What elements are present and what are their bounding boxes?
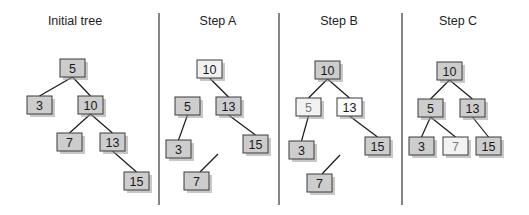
panel-title: Step A [200,14,237,28]
tree-node: 5 [60,59,88,80]
tree-node: 10 [437,62,465,83]
panels: Initial tree531071315Step A105133157Step… [27,14,504,195]
tree-node: 3 [289,141,317,162]
panel-title: Step C [439,14,477,28]
tree-node: 3 [166,140,194,161]
tree-node: 7 [57,133,85,154]
tree-node: 7 [307,174,335,195]
tree-node: 5 [418,99,446,120]
tree-node: 10 [315,61,343,82]
tree-node: 10 [197,60,225,81]
node-label: 7 [193,175,200,189]
node-label: 3 [298,144,305,158]
tree-node: 15 [124,172,152,193]
tree-node: 5 [175,97,203,118]
panel-step-c: Step C105133715 [409,14,504,158]
tree-node: 15 [365,137,393,158]
detached-edge [322,155,340,174]
panel-title: Step B [320,14,358,28]
node-label: 15 [371,140,385,154]
panel-title: Initial tree [48,14,102,28]
tree-node: 3 [409,137,437,158]
tree-edge [350,116,378,137]
node-label: 5 [184,100,191,114]
node-label: 13 [343,101,357,115]
tree-node: 13 [100,133,128,154]
tree-node: 15 [476,137,504,158]
node-label: 3 [175,143,182,157]
tree-edge [113,151,137,172]
panel-step-b: Step B105133157 [289,14,393,195]
tree-node: 13 [460,99,488,120]
node-label: 15 [130,175,144,189]
node-label: 5 [305,101,312,115]
node-label: 3 [418,140,425,154]
tree-node: 13 [337,98,365,119]
tree-node: 10 [78,96,106,117]
node-label: 3 [36,99,43,113]
node-label: 10 [443,65,457,79]
tree-node: 3 [27,96,55,117]
detached-edge [200,154,218,172]
tree-node: 13 [216,97,244,118]
node-label: 13 [222,100,236,114]
node-label: 10 [84,99,98,113]
tree-node: 7 [443,137,471,158]
node-label: 7 [66,136,73,150]
node-label: 13 [466,102,480,116]
node-label: 10 [321,64,335,78]
edges [40,77,137,172]
tree-node: 15 [243,135,271,156]
tree-node: 5 [296,98,324,119]
node-label: 13 [106,136,120,150]
node-label: 7 [452,140,459,154]
node-label: 15 [249,138,263,152]
node-label: 5 [69,62,76,76]
node-label: 15 [482,140,496,154]
tree-edge [179,115,188,140]
panel-step-a: Step A105133157 [166,14,271,193]
node-label: 7 [316,177,323,191]
tree-rotation-diagram: Initial tree531071315Step A105133157Step… [0,0,529,215]
node-label: 5 [427,102,434,116]
node-label: 10 [203,63,217,77]
tree-edge [302,116,309,141]
tree-node: 7 [184,172,212,193]
panel-initial: Initial tree531071315 [27,14,152,193]
